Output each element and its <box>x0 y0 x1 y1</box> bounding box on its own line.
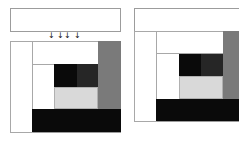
left-column-block <box>10 41 33 133</box>
left-inner-white-block <box>32 64 55 110</box>
right-dark-gray-block <box>201 54 223 76</box>
down-arrow-icon: ↓ <box>74 32 81 40</box>
right-inner-white-block <box>156 53 180 100</box>
left-black-block <box>54 64 77 87</box>
down-arrow-icon: ↓ <box>57 32 64 40</box>
left-black-bottom-bar <box>32 109 121 132</box>
right-black-block <box>179 54 201 76</box>
left-dark-gray-block <box>77 64 98 87</box>
right-black-bottom-bar <box>156 99 239 121</box>
left-top-box <box>10 8 121 32</box>
left-top-inner-block <box>32 41 99 65</box>
down-arrow-icon: ↓ <box>48 32 55 40</box>
left-light-gray-block <box>54 87 98 109</box>
left-mid-gray-column <box>98 41 121 109</box>
right-column-block <box>134 31 157 122</box>
down-arrow-icon: ↓ <box>64 32 71 40</box>
right-top-box <box>134 8 239 32</box>
right-mid-gray-column <box>223 31 239 99</box>
right-top-inner-block <box>156 31 224 54</box>
right-light-gray-block <box>179 76 223 99</box>
